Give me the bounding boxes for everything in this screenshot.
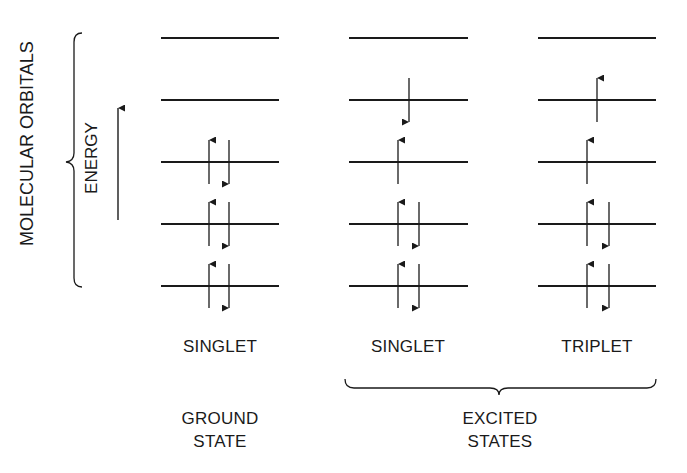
excited-states-label: EXCITED STATES [440, 407, 560, 453]
state-label-excited-singlet: SINGLET [348, 337, 468, 357]
orbitals-brace [66, 33, 82, 287]
excited-states-line1: EXCITED [440, 407, 560, 430]
ground-state-label: GROUND STATE [160, 407, 280, 453]
excited-states-brace [345, 379, 656, 395]
ground-state-line1: GROUND [160, 407, 280, 430]
energy-level-diagram [0, 0, 687, 473]
energy-label: ENERGY [81, 118, 103, 198]
molecular-orbitals-label: MOLECULAR ORBITALS [15, 76, 39, 246]
excited-states-line2: STATES [440, 430, 560, 453]
state-label-ground-singlet: SINGLET [160, 337, 280, 357]
orbital-levels [161, 38, 656, 308]
ground-state-line2: STATE [160, 430, 280, 453]
state-label-excited-triplet: TRIPLET [537, 337, 657, 357]
